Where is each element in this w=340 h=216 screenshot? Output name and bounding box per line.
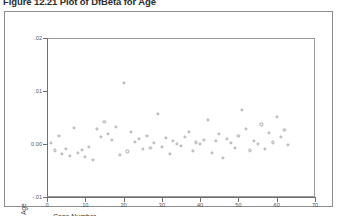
x-tick-label: 10 [82,202,88,208]
y-tick-label: .02 [34,35,42,41]
y-tick-label: .01 [34,88,42,94]
figure-caption: Figure 12.21 Plot of DfBeta for Age [3,0,156,7]
x-tick-label: 20 [120,202,126,208]
y-tick-mark [43,91,48,92]
y-axis-title: DfBeta for Age [20,203,27,216]
x-tick-label: 50 [235,202,241,208]
x-tick-label: 30 [159,202,165,208]
y-tick-mark [43,144,48,145]
x-tick-label: 60 [274,202,280,208]
y-tick-mark [43,38,48,39]
x-tick-label: 40 [197,202,203,208]
y-tick-label: -.01 [32,194,42,200]
y-tick-label: 0.00 [31,141,42,147]
y-axis-title-wrap: DfBeta for Age [16,167,26,177]
y-axis-labels: -.010.00.01.02 [5,12,42,208]
x-tick-label: 0 [45,202,48,208]
x-tick-label: 70 [312,202,318,208]
figure-border: -.010.00.01.02 DfBeta for Age Case Numbe… [4,11,333,207]
x-axis-line [47,197,316,198]
y-axis-line [47,38,48,198]
x-axis-title: Case Number [53,213,96,216]
